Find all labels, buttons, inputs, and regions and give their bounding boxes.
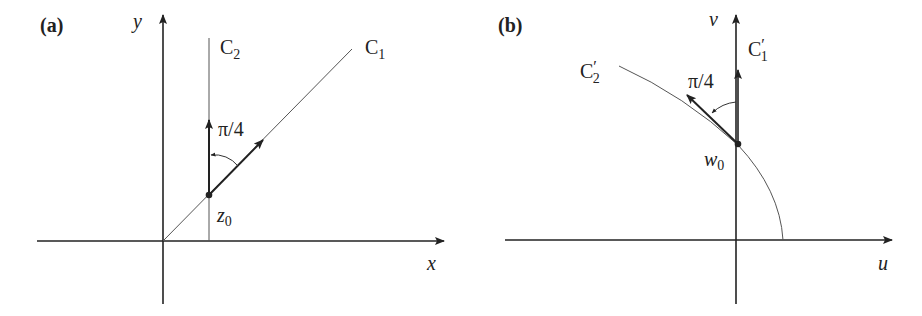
curve-c2-prime-label: C′2 (580, 58, 600, 86)
panel-b: (b) v u C′1 C′2 π/4 w0 (498, 8, 892, 304)
tangent-arrow-c1 (209, 140, 263, 195)
v-axis-label: v (709, 8, 718, 30)
curve-c1-label: C1 (365, 36, 385, 62)
point-w0-label: w0 (704, 148, 724, 173)
point-z0-label: z0 (216, 204, 232, 229)
point-w0 (735, 141, 742, 148)
panel-a: (a) y x C2 C1 π/4 z0 (37, 10, 444, 304)
curve-c1-prime-label: C′1 (748, 36, 768, 64)
panel-a-label: (a) (40, 14, 63, 37)
curve-c2-label: C2 (220, 36, 240, 62)
angle-arc-b (712, 102, 736, 113)
conformal-mapping-figure: (a) y x C2 C1 π/4 z0 (b) v u C′1 C′2 (0, 0, 922, 316)
point-z0 (206, 192, 213, 199)
u-axis-label: u (878, 252, 888, 274)
angle-label-b: π/4 (688, 70, 714, 92)
angle-label-a: π/4 (218, 118, 244, 140)
tangent-arrow-c2-prime (687, 95, 738, 144)
panel-b-label: (b) (498, 14, 522, 37)
curve-c2-prime (619, 66, 783, 240)
y-axis-label: y (131, 10, 142, 33)
x-axis-label: x (426, 252, 436, 274)
angle-arc (211, 155, 238, 166)
